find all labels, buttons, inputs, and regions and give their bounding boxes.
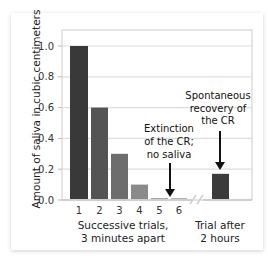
x-axis-label-after: Trial after (194, 219, 245, 231)
bar-3 (111, 154, 128, 200)
y-axis-label: Amount of saliva in cubic centimeters (30, 10, 42, 209)
annotation-recovery-text: recovery of (190, 103, 247, 114)
annotation-extinction-text: Extinction (144, 123, 194, 134)
x-tick-label: 2 (96, 205, 102, 216)
x-axis-label-trials: 3 minutes apart (81, 232, 165, 244)
x-axis-label-trials: Successive trials, (78, 219, 169, 231)
annotation-recovery-text: Spontaneous (185, 90, 250, 101)
x-tick-label: 3 (116, 205, 122, 216)
x-tick-label: 4 (136, 205, 142, 216)
x-axis-label-after: 2 hours (200, 232, 240, 244)
annotation-extinction-text: of the CR; (144, 136, 194, 147)
bar-2 (91, 108, 108, 200)
bar-1 (70, 46, 88, 200)
bar-4 (131, 185, 148, 200)
annotation-recovery-text: the CR (201, 115, 235, 126)
x-tick-label: 5 (156, 205, 162, 216)
annotation-extinction-text: no saliva (147, 149, 192, 160)
bar-7 (212, 174, 229, 200)
x-tick-label: 6 (176, 205, 182, 216)
bar-chart: 0.00.20.40.60.81.0Amount of saliva in cu… (0, 0, 275, 263)
x-tick-label: 1 (76, 205, 82, 216)
